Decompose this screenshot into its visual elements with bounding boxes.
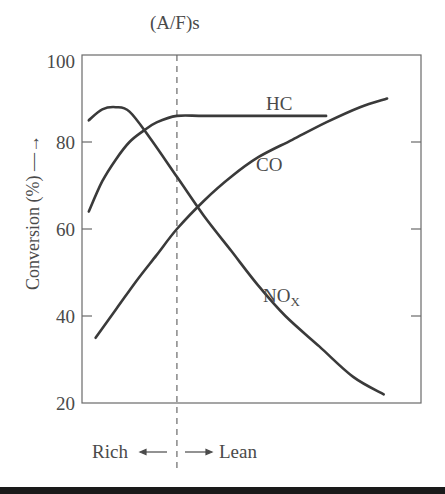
hc-label: HC (266, 93, 292, 114)
y-ticks-left (82, 142, 92, 316)
lean-arrow-icon (185, 450, 212, 455)
stoichiometric-label: (A/F)s (150, 12, 200, 34)
y-ticks-right (411, 142, 421, 316)
rich-arrow-icon (140, 450, 167, 455)
ytick-60: 60 (56, 219, 75, 240)
ytick-80: 80 (56, 132, 75, 153)
co-label: CO (256, 154, 282, 175)
y-axis-label: Conversion (%) —→ (23, 135, 44, 290)
nox-label: NOX (263, 285, 300, 309)
nox-curve (89, 107, 384, 394)
ytick-20: 20 (56, 393, 75, 414)
plot-frame (82, 55, 421, 403)
nox-label-main: NO (263, 285, 290, 306)
rich-label: Rich (92, 441, 128, 462)
ytick-100: 100 (47, 51, 76, 72)
lean-label: Lean (219, 441, 257, 462)
bottom-border-bar (0, 487, 445, 494)
nox-label-sub: X (290, 294, 300, 309)
conversion-chart: (A/F)s 100 80 60 40 20 Conversion (%) —→… (0, 0, 445, 494)
ytick-40: 40 (56, 306, 75, 327)
